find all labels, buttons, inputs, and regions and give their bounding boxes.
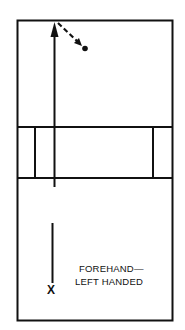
arrowhead-diagonal-icon xyxy=(74,38,82,46)
arrowhead-up-icon xyxy=(51,22,59,37)
ball-dot-icon xyxy=(82,46,88,52)
caption-line-2: LEFT HANDED xyxy=(75,275,143,288)
diagram-canvas: X FOREHAND— LEFT HANDED xyxy=(0,0,185,330)
player-position-marker: X xyxy=(47,283,55,297)
deflection-dashed-line xyxy=(58,23,77,41)
caption-line-1: FOREHAND— xyxy=(79,262,144,275)
